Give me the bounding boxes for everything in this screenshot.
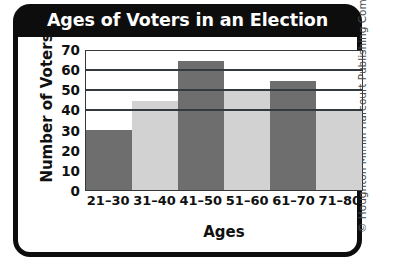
- plot-inner: [85, 50, 363, 191]
- gridline: [86, 89, 362, 90]
- plot-area: 010203040506070: [85, 50, 363, 191]
- bar: [178, 61, 224, 190]
- x-tick-label: 41–50: [178, 193, 224, 213]
- chart-title: Ages of Voters in an Election: [13, 4, 362, 37]
- bar: [224, 91, 270, 190]
- bar: [270, 81, 316, 190]
- y-tick-label: 40: [46, 102, 80, 118]
- x-axis-ticks: 21–3031–4041–5051–6061–7071–80: [85, 193, 363, 213]
- y-tick-label: 30: [46, 123, 80, 139]
- gridline: [86, 109, 362, 110]
- x-tick-label: 61–70: [270, 193, 316, 213]
- y-tick-label: 20: [46, 143, 80, 159]
- bar: [86, 130, 132, 190]
- x-tick-label: 21–30: [85, 193, 131, 213]
- bar: [132, 101, 178, 190]
- chart-frame: Ages of Voters in an Election Number of …: [13, 4, 362, 257]
- y-tick-label: 70: [46, 42, 80, 58]
- x-tick-label: 51–60: [224, 193, 270, 213]
- x-tick-label: 31–40: [131, 193, 177, 213]
- y-tick-label: 60: [46, 62, 80, 78]
- gridline: [86, 69, 362, 70]
- y-tick-label: 50: [46, 82, 80, 98]
- chart-panel: Number of Voters 010203040506070 21–3031…: [18, 37, 357, 252]
- bar: [316, 111, 362, 190]
- y-tick-label: 10: [46, 163, 80, 179]
- y-tick-label: 0: [46, 183, 80, 199]
- x-axis-title: Ages: [85, 223, 363, 241]
